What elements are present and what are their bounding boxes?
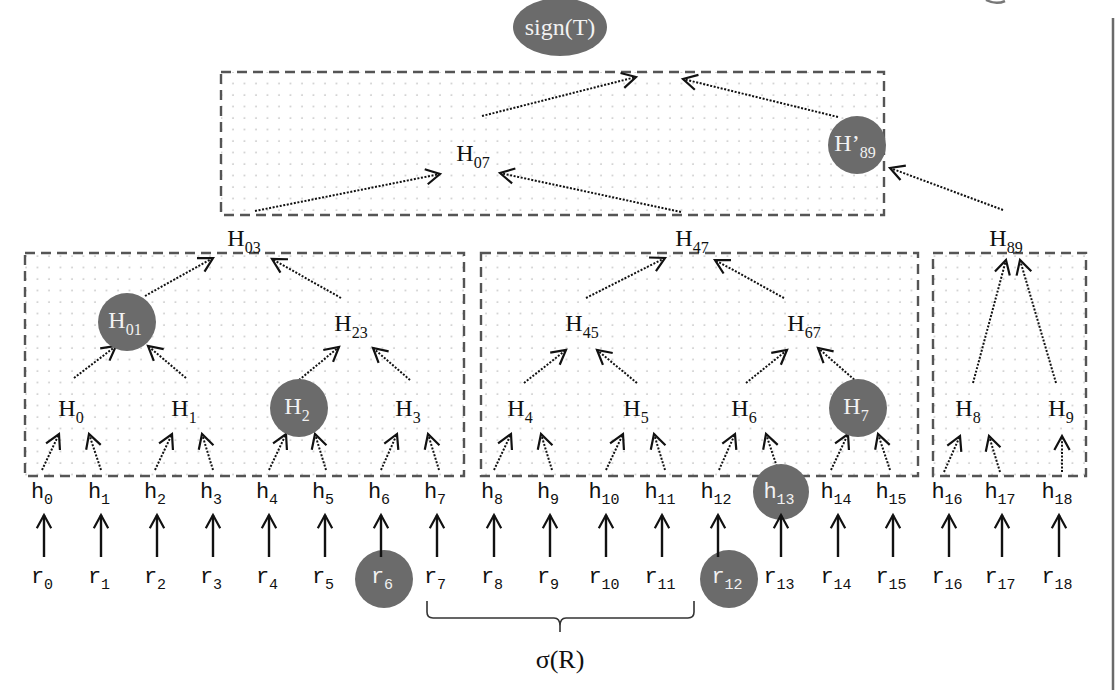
leaf-r7: r7 <box>424 565 446 594</box>
node-label: h5 <box>312 480 334 509</box>
node-label: h2 <box>144 480 166 509</box>
leaf-h14: h14 <box>820 480 851 509</box>
node-label: h6 <box>368 480 390 509</box>
node-label: r14 <box>820 565 851 594</box>
leaf-r14: r14 <box>820 565 851 594</box>
solid-arrow <box>886 515 900 557</box>
solid-arrow <box>655 515 669 557</box>
leaf-h6: h6 <box>368 480 390 509</box>
tree-node-h47: H47 <box>675 225 708 256</box>
tree-node-h7: H7 <box>829 379 887 437</box>
node-label: h18 <box>1041 480 1072 509</box>
leaf-r5: r5 <box>312 565 334 594</box>
node-label: h8 <box>481 480 503 509</box>
solid-arrow <box>831 515 845 557</box>
node-label: h0 <box>31 480 53 509</box>
solid-arrow <box>599 515 613 557</box>
solid-arrow <box>543 515 557 557</box>
leaf-h15: h15 <box>875 480 906 509</box>
solid-arrow <box>995 515 1009 557</box>
node-label: r0 <box>31 565 53 594</box>
node-label: h12 <box>700 480 731 509</box>
node-label: r2 <box>144 565 166 594</box>
node-label: h14 <box>820 480 851 509</box>
node-label: h7 <box>424 480 446 509</box>
solid-arrow <box>318 515 332 557</box>
solid-arrows <box>37 515 1066 557</box>
tree-node-h89p: H’89 <box>828 116 886 174</box>
node-label: r7 <box>424 565 446 594</box>
solid-arrow <box>430 515 444 557</box>
node-label: r8 <box>481 565 503 594</box>
leaf-h10: h10 <box>588 480 619 509</box>
leaf-r3: r3 <box>200 565 222 594</box>
tree-node-h2: H2 <box>270 379 328 437</box>
merkle-tree-diagram: sign(T)H07H’89H03H47H89H01H23H45H67H0H1H… <box>0 0 1120 690</box>
leaf-r0: r0 <box>31 565 53 594</box>
leaf-r1: r1 <box>88 565 110 594</box>
leaf-r11: r11 <box>644 565 675 594</box>
node-label: h3 <box>200 480 222 509</box>
leaf-r18: r18 <box>1041 565 1072 594</box>
node-label: h15 <box>875 480 906 509</box>
node-label: r3 <box>200 565 222 594</box>
leaf-h17: h17 <box>984 480 1015 509</box>
leaf-r4: r4 <box>256 565 278 594</box>
leaf-nodes: h0h1h2h3h4h5h6h7h8h9h10h11h12h13h14h15h1… <box>31 464 1073 608</box>
node-label: h10 <box>588 480 619 509</box>
leaf-h18: h18 <box>1041 480 1072 509</box>
node-label: h11 <box>644 480 675 509</box>
leaf-h13: h13 <box>753 464 809 520</box>
box-right-fill <box>933 253 1086 476</box>
leaf-r12: r12 <box>700 550 758 608</box>
leaf-h8: h8 <box>481 480 503 509</box>
leaf-h3: h3 <box>200 480 222 509</box>
node-label: h17 <box>984 480 1015 509</box>
leaf-h2: h2 <box>144 480 166 509</box>
node-label: r17 <box>984 565 1015 594</box>
dotted-arrow <box>890 166 1003 210</box>
node-label: h1 <box>88 480 110 509</box>
leaf-h4: h4 <box>256 480 278 509</box>
node-label: h4 <box>256 480 278 509</box>
leaf-r10: r10 <box>588 565 619 594</box>
node-label: r15 <box>875 565 906 594</box>
leaf-r15: r15 <box>875 565 906 594</box>
tree-node-h01: H01 <box>98 293 156 351</box>
node-label: h16 <box>931 480 962 509</box>
node-label: h9 <box>537 480 559 509</box>
node-label: r5 <box>312 565 334 594</box>
solid-arrow <box>774 515 788 557</box>
solid-arrow <box>487 515 501 557</box>
node-label: H03 <box>227 225 260 256</box>
leaf-h0: h0 <box>31 480 53 509</box>
node-label: H89 <box>989 225 1022 256</box>
solid-arrow <box>1052 515 1066 557</box>
tree-node-h89: H89 <box>989 225 1022 256</box>
corner-curve-artifact <box>986 0 1005 3</box>
leaf-h16: h16 <box>931 480 962 509</box>
leaf-h1: h1 <box>88 480 110 509</box>
root-node-sign-t: sign(T) <box>513 0 607 56</box>
leaf-r8: r8 <box>481 565 503 594</box>
node-label: r16 <box>931 565 962 594</box>
solid-arrow <box>150 515 164 557</box>
leaf-r17: r17 <box>984 565 1015 594</box>
leaf-h7: h7 <box>424 480 446 509</box>
node-label: r18 <box>1041 565 1072 594</box>
solid-arrow <box>94 515 108 557</box>
leaf-r13: r13 <box>763 565 794 594</box>
node-label: r13 <box>763 565 794 594</box>
node-label: H47 <box>675 225 708 256</box>
node-label: r9 <box>537 565 559 594</box>
node-label: r1 <box>88 565 110 594</box>
node-label: r10 <box>588 565 619 594</box>
solid-arrow <box>206 515 220 557</box>
box-top-fill <box>221 72 884 215</box>
node-label: r11 <box>644 565 675 594</box>
node-label: r4 <box>256 565 278 594</box>
leaf-r6: r6 <box>355 550 413 608</box>
diagram-canvas: sign(T)H07H’89H03H47H89H01H23H45H67H0H1H… <box>0 0 1120 690</box>
sigma-r-label: σ(R) <box>536 645 585 674</box>
leaf-h12: h12 <box>700 480 731 509</box>
